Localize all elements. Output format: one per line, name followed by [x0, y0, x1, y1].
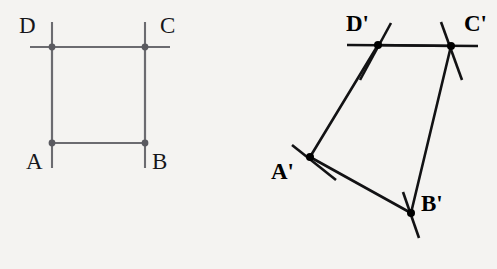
image-quadrilateral [292, 22, 478, 238]
figure-canvas: ABCDA'B'C'D' [0, 0, 497, 269]
vertex-dot-bp [407, 209, 415, 217]
vertex-dot-b [142, 140, 149, 147]
pre-image-square [30, 22, 170, 168]
vertex-label-dp: D' [346, 12, 369, 35]
vertex-dot-cp [447, 42, 455, 50]
edge-ap-bp [310, 157, 411, 213]
geometry-diagram [0, 0, 497, 269]
vertex-label-c: C [160, 14, 175, 37]
vertex-label-a: A [26, 150, 43, 173]
edge-cp-dp [378, 45, 451, 46]
edge-dp-ap [310, 45, 378, 157]
vertex-label-bp: B' [421, 192, 443, 215]
vertex-dot-c [142, 44, 149, 51]
vertex-label-ap: A' [271, 160, 294, 183]
vertex-dot-dp [374, 41, 382, 49]
vertex-dot-a [49, 140, 56, 147]
vertex-label-d: D [19, 14, 36, 37]
vertex-dot-d [49, 44, 56, 51]
vertex-dot-ap [306, 153, 314, 161]
vertex-label-cp: C' [464, 12, 487, 35]
edge-bp-cp [411, 46, 451, 213]
vertex-label-b: B [152, 150, 167, 173]
